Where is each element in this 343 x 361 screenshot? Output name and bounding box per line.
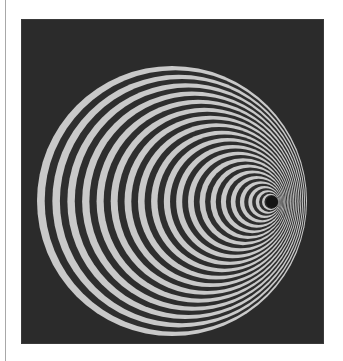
tunnel-illusion-graphic: [0, 0, 343, 361]
vanishing-hole: [266, 196, 278, 208]
